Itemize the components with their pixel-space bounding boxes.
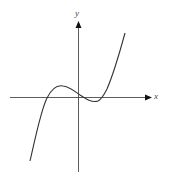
cubic-curve	[30, 33, 125, 161]
x-axis-arrow-icon	[145, 95, 152, 101]
y-axis-arrow-icon	[76, 21, 82, 28]
cubic-graph-svg	[0, 0, 169, 177]
y-axis-label: y	[75, 8, 79, 18]
x-axis-label: x	[154, 91, 158, 101]
